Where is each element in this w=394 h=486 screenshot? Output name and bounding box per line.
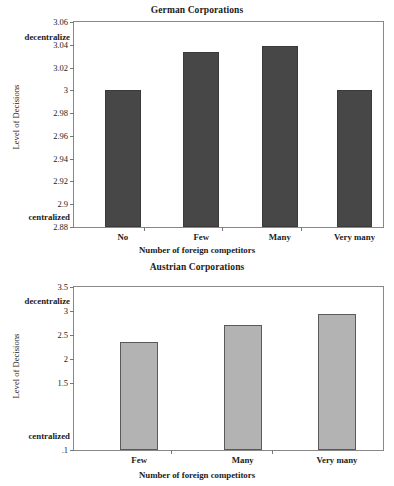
x-axis-title: Number of foreign competitors <box>0 245 394 255</box>
y-tick-label: 3.5 <box>57 282 74 292</box>
y-tick-label: 2 <box>64 354 74 364</box>
y-tick-label: 3.02 <box>53 63 74 73</box>
y-tick-label: 1.5 <box>57 378 74 388</box>
chart-austrian-corporations: Austrian Corporations Level of Decisions… <box>0 258 394 486</box>
x-tick-label-many: Many <box>232 455 254 465</box>
bar-many <box>224 325 262 450</box>
y-tick-label: 2.92 <box>53 176 74 186</box>
y-tick-label: 3 <box>64 306 74 316</box>
x-tick-label-many: Many <box>269 232 291 242</box>
y-tick-label: 2.98 <box>53 108 74 118</box>
bar-few <box>183 52 219 227</box>
centralized-note: centralized <box>0 431 70 441</box>
y-tick-label: 2.5 <box>57 330 74 340</box>
chart-german-corporations: German Corporations Level of Decisions 3… <box>0 0 394 258</box>
y-tick-label: 3.06 <box>53 17 74 27</box>
y-axis-title: Level of Decisions <box>11 72 21 162</box>
y-axis-title: Level of Decisions <box>11 321 21 411</box>
bar-very-many <box>318 314 356 450</box>
x-tick-label-very-many: Very many <box>334 232 375 242</box>
x-tick-label-few: Few <box>193 232 209 242</box>
bar-many <box>262 46 298 227</box>
y-tick-label: 2.9 <box>57 199 74 209</box>
bar-series <box>74 22 383 227</box>
x-axis-title: Number of foreign competitors <box>0 470 394 480</box>
chart-title: Austrian Corporations <box>0 262 394 272</box>
decentralize-note: decentralize <box>0 296 70 306</box>
plot-area: 3.06 3.04 3.02 3 2.98 2.96 2.94 2.92 2.9… <box>73 21 384 228</box>
y-tick-label: 2.94 <box>53 154 74 164</box>
chart-title: German Corporations <box>0 5 394 15</box>
y-tick-label: 2.88 <box>53 222 74 232</box>
bar-very-many <box>337 90 373 227</box>
decentralize-note: decentralize <box>0 32 70 42</box>
y-tick-label: .1 <box>62 445 74 455</box>
y-tick-label: 2.96 <box>53 131 74 141</box>
bar-few <box>120 342 158 450</box>
bar-series <box>74 287 383 450</box>
plot-area: 3.5 3 2.5 2 1.5 .1 Few Many Very many <box>73 286 384 451</box>
bar-no <box>105 90 141 227</box>
x-tick-label-no: No <box>117 232 128 242</box>
x-tick-label-very-many: Very many <box>316 455 357 465</box>
y-tick-label: 3 <box>64 85 74 95</box>
centralized-note: centralized <box>0 212 70 222</box>
x-tick-label-few: Few <box>131 455 147 465</box>
